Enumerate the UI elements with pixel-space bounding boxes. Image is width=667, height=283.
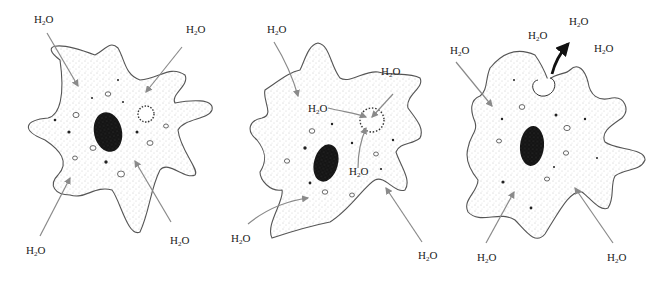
expelling-vacuole: [533, 78, 555, 96]
h2o-label: H2O: [528, 30, 547, 43]
h2o-label: H2O: [231, 233, 250, 246]
h2o-label: H2O: [186, 24, 205, 37]
h2o-label: H2O: [477, 252, 496, 265]
cell-membrane: [467, 51, 645, 238]
h2o-label: H2O: [381, 66, 400, 79]
h2o-label: H2O: [607, 252, 626, 265]
h2o-label: H2O: [267, 24, 286, 37]
h2o-label: H2O: [308, 103, 327, 116]
h2o-label: H2O: [26, 245, 45, 258]
h2o-label: H2O: [349, 166, 368, 179]
contractile-vacuole: [360, 108, 384, 132]
amoeba-panel-3: [456, 44, 645, 243]
h2o-label: H2O: [34, 14, 53, 27]
amoeba-osmosis-diagram: [0, 0, 667, 283]
h2o-label: H2O: [450, 45, 469, 58]
h2o-label: H2O: [569, 16, 588, 29]
h2o-label: H2O: [418, 250, 437, 263]
contractile-vacuole: [138, 106, 154, 122]
h2o-label: H2O: [594, 43, 613, 56]
water-expulsion-arrow: [552, 44, 568, 74]
h2o-label: H2O: [170, 235, 189, 248]
amoeba-panel-1: [28, 33, 212, 236]
